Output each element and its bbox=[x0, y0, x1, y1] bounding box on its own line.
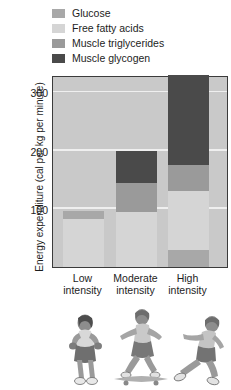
legend-item-glucose: Glucose bbox=[52, 6, 228, 20]
y-axis-tick-labels: 100200300 bbox=[0, 76, 48, 268]
segment-muscle-glycogen bbox=[116, 151, 157, 183]
running-person-figure bbox=[170, 313, 228, 387]
segment-free-fatty-acids bbox=[168, 191, 209, 249]
x-tick-line1: High bbox=[157, 273, 219, 285]
segment-glucose bbox=[168, 250, 209, 267]
bar-moderate-intensity bbox=[116, 151, 157, 267]
walking-person-figure bbox=[58, 313, 114, 387]
legend-label-muscle-glycogen: Muscle glycogen bbox=[72, 53, 150, 64]
x-tick-label-high-intensity: Highintensity bbox=[157, 273, 219, 296]
chart-legend: Glucose Free fatty acids Muscle triglyce… bbox=[52, 6, 228, 66]
y-tick-label-200: 200 bbox=[4, 147, 48, 158]
x-tick-line2: intensity bbox=[157, 285, 219, 297]
legend-label-muscle-triglycerides: Muscle triglycerides bbox=[72, 38, 164, 49]
skateboarding-person-figure bbox=[108, 307, 174, 387]
legend-item-muscle-glycogen: Muscle glycogen bbox=[52, 51, 228, 65]
legend-swatch-muscle-triglycerides bbox=[52, 39, 65, 48]
legend-label-glucose: Glucose bbox=[72, 8, 111, 19]
legend-swatch-muscle-glycogen bbox=[52, 54, 65, 63]
activity-illustration bbox=[52, 305, 228, 387]
segment-free-fatty-acids bbox=[63, 219, 104, 267]
legend-label-free-fatty-acids: Free fatty acids bbox=[72, 23, 144, 34]
segment-muscle-triglycerides bbox=[116, 183, 157, 212]
x-axis-tick-labels: LowintensityModerateintensityHighintensi… bbox=[52, 273, 228, 299]
plot-area bbox=[52, 76, 228, 268]
segment-free-fatty-acids bbox=[116, 212, 157, 267]
segment-muscle-glycogen bbox=[168, 75, 209, 165]
bar-low-intensity bbox=[63, 211, 104, 267]
segment-glucose bbox=[63, 211, 104, 220]
legend-item-free-fatty-acids: Free fatty acids bbox=[52, 21, 228, 35]
segment-muscle-triglycerides bbox=[168, 165, 209, 191]
legend-item-muscle-triglycerides: Muscle triglycerides bbox=[52, 36, 228, 50]
y-tick-label-100: 100 bbox=[4, 205, 48, 216]
legend-swatch-free-fatty-acids bbox=[52, 24, 65, 33]
y-tick-label-300: 300 bbox=[4, 88, 48, 99]
chart-figure: Glucose Free fatty acids Muscle triglyce… bbox=[0, 0, 231, 390]
bar-high-intensity bbox=[168, 92, 209, 267]
legend-swatch-glucose bbox=[52, 9, 65, 18]
